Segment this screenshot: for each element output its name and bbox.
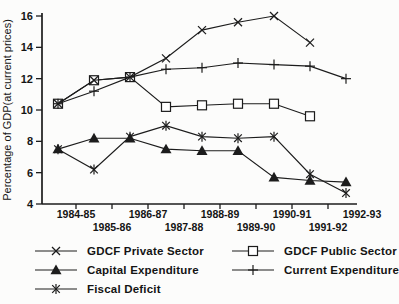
legend-item-gdcf-public-sector: GDCF Public Sector <box>230 243 399 258</box>
x-tick-label: 1986-87 <box>129 208 168 220</box>
triangle-marker-icon <box>89 133 100 143</box>
triangle-marker-icon <box>125 133 136 143</box>
x-tick-label: 1984-85 <box>57 208 96 220</box>
legend-item-gdcf-private-sector: GDCF Private Sector <box>33 243 230 258</box>
x-tick-label: 1987-88 <box>165 221 204 233</box>
x-tick-label: 1991-92 <box>309 221 348 233</box>
y-tick-label: 8 <box>27 135 33 147</box>
legend-label: Current Expenditure <box>284 264 399 276</box>
y-tick-label: 6 <box>27 167 33 179</box>
square-marker-icon <box>306 112 315 121</box>
y-axis-title: Percentage of GDP(at current prices) <box>1 19 13 201</box>
legend-item-fiscal-deficit: Fiscal Deficit <box>33 281 230 296</box>
square-marker-icon <box>198 101 207 110</box>
legend-label: GDCF Public Sector <box>284 245 397 257</box>
y-tick-label: 16 <box>21 10 33 22</box>
x-tick-label: 1992-93 <box>343 208 382 220</box>
triangle-marker-icon <box>233 145 244 155</box>
chart-legend: GDCF Private Sector GDCF Public Sector C… <box>33 243 399 296</box>
line-chart: Percentage of GDP(at current prices) 468… <box>0 0 394 240</box>
y-tick-label: 12 <box>21 73 33 85</box>
x-tick-label: 1989-90 <box>237 221 276 233</box>
plus-marker-icon <box>230 264 276 276</box>
legend-item-current-expenditure: Current Expenditure <box>230 262 399 277</box>
x-tick-label: 1988-89 <box>201 208 240 220</box>
legend-label: GDCF Private Sector <box>87 245 204 257</box>
y-tick-label: 10 <box>21 104 33 116</box>
square-marker-icon <box>249 246 258 255</box>
square-marker-icon <box>162 102 171 111</box>
legend-item-capital-expenditure: Capital Expenditure <box>33 262 230 277</box>
asterisk-marker-icon <box>33 283 79 295</box>
triangle-marker-icon <box>33 264 79 276</box>
y-tick-label: 4 <box>27 198 34 210</box>
legend-label: Capital Expenditure <box>87 264 199 276</box>
x-tick-label: 1990-91 <box>273 208 312 220</box>
series-line-capital-expenditure <box>58 138 346 182</box>
x-tick-label: 1985-86 <box>93 221 132 233</box>
y-tick-label: 14 <box>21 41 34 53</box>
square-marker-icon <box>234 99 243 108</box>
square-marker-icon <box>230 245 276 257</box>
square-marker-icon <box>270 99 279 108</box>
x-marker-icon <box>33 245 79 257</box>
legend-label: Fiscal Deficit <box>87 283 161 295</box>
triangle-marker-icon <box>269 172 280 182</box>
triangle-marker-icon <box>51 264 62 274</box>
